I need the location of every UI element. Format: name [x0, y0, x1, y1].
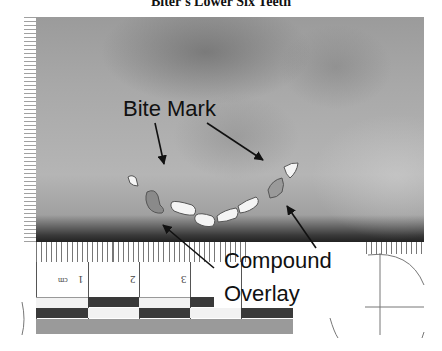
arrow-icon	[287, 206, 316, 248]
tooth-icon	[195, 214, 215, 227]
overlay-label: Overlay	[224, 283, 300, 305]
tooth-icon	[268, 178, 284, 198]
teeth-overlay	[128, 163, 298, 227]
tooth-icon	[146, 191, 164, 213]
tooth-icon	[217, 208, 238, 222]
arrow-icon	[163, 225, 214, 268]
overlay-graphics	[0, 0, 442, 351]
tooth-icon	[238, 197, 258, 213]
arrow-icon	[207, 123, 263, 160]
compound-label: Compound	[224, 250, 332, 272]
tooth-icon	[128, 176, 138, 186]
circle-guide-icon	[22, 302, 24, 335]
tooth-icon	[284, 163, 298, 178]
crosshair-icon	[330, 253, 424, 338]
arrow-icon	[155, 123, 164, 164]
tooth-icon	[171, 201, 196, 215]
bite-mark-label: Bite Mark	[123, 98, 216, 120]
